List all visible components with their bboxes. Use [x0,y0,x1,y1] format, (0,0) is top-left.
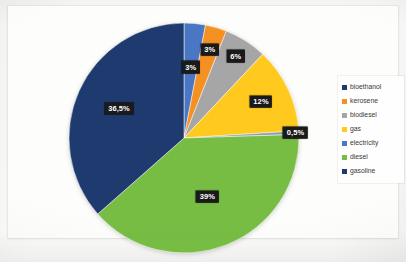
legend-item-diesel[interactable]: diesel [342,150,401,164]
pie-chart [68,22,300,254]
legend-item-label: gasoline [350,168,375,175]
pie-label-electricity: 0,5% [283,126,308,139]
legend-item-label: electricity [350,140,378,147]
legend-item-bioethanol[interactable]: bioethanol [342,80,401,94]
legend-item-label: kerosene [350,98,378,105]
pie-chart-plot-area: 3%3%6%12%0,5%39%36,5% [68,22,300,254]
legend-swatch-icon [342,113,347,118]
legend-item-gasoline[interactable]: gasoline [342,164,401,178]
legend-swatch-icon [342,169,347,174]
pie-label-gas: 12% [250,96,272,109]
legend-item-biodiesel[interactable]: biodiesel [342,108,401,122]
scanned-page: 3%3%6%12%0,5%39%36,5% bioethanolkerosene… [0,0,406,262]
legend-swatch-icon [342,155,347,160]
legend-item-label: biodiesel [350,112,377,119]
legend-item-electricity[interactable]: electricity [342,136,401,150]
pie-label-biodiesel: 6% [227,50,245,63]
legend-swatch-icon [342,141,347,146]
legend-item-label: diesel [350,154,368,161]
chart-legend: bioethanolkerosenebiodieselgaselectricit… [338,76,404,183]
legend-swatch-icon [342,85,347,90]
legend-item-kerosene[interactable]: kerosene [342,94,401,108]
figure-card: 3%3%6%12%0,5%39%36,5% bioethanolkerosene… [8,6,398,238]
pie-label-kerosene: 3% [201,43,219,56]
legend-item-label: gas [350,126,361,133]
legend-swatch-icon [342,127,347,132]
pie-label-bioethanol: 3% [182,61,200,74]
legend-item-gas[interactable]: gas [342,122,401,136]
legend-item-label: bioethanol [350,84,381,91]
legend-swatch-icon [342,99,347,104]
pie-label-diesel: 39% [196,191,218,204]
pie-label-gasoline: 36,5% [105,102,134,115]
